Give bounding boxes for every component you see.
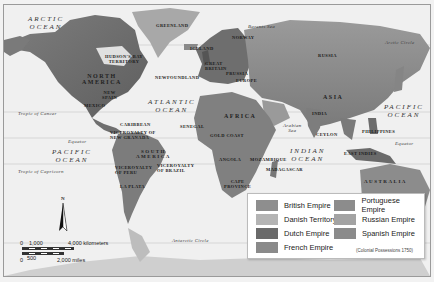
scale-mi-start: 0 [20, 257, 23, 263]
legend-item-dutch: Dutch Empire [256, 227, 329, 239]
legend-label: Spanish Empire [362, 229, 415, 238]
senegal-label: SENEGAL [180, 125, 204, 130]
russian-swatch [334, 214, 356, 225]
legend-item-portuguese: Portuguese Empire [334, 199, 424, 211]
scale-mi-end: 2,000 miles [57, 257, 85, 263]
legend-note: (Colonial Possessions 1750) [356, 248, 413, 253]
compass-north-label: N [61, 196, 65, 201]
legend-label: French Empire [284, 243, 333, 252]
arctic-circle-label: Arctic Circle [385, 40, 415, 45]
ceylon-label: CEYLON [316, 133, 338, 138]
vicer-brazil-label: VICEROYALTY OF BRAZIL [157, 164, 194, 173]
great-britain-label: GREAT BRITAIN [205, 62, 227, 71]
australia-label: AUSTRALIA [364, 179, 407, 184]
iceland-label: ICELAND [190, 47, 214, 52]
south-america-label: SOUTH AMERICA [136, 149, 171, 159]
la-plata-label: LA PLATA [120, 185, 145, 190]
mexico-label: MEXICO [84, 104, 105, 109]
compass-arrow [59, 203, 67, 231]
french-swatch [256, 242, 278, 253]
legend-item-british: British Empire [256, 199, 331, 211]
new-spain-label: NEW SPAIN [102, 91, 117, 100]
atlantic-ocean-label: ATLANTIC OCEAN [148, 98, 196, 114]
legend-item-french: French Empire [256, 241, 333, 253]
legend-label: Dutch Empire [284, 229, 329, 238]
asia-label: ASIA [323, 94, 343, 100]
east-indies-label: EAST INDIES [344, 152, 377, 157]
prussia-label: PRUSSIA [226, 72, 248, 77]
equator-west-label: Equator [68, 139, 87, 144]
tropic-of-capricorn-label: Tropic of Capricorn [18, 169, 64, 174]
arabian-sea-label: Arabian Sea [283, 123, 302, 133]
vicer-peru-label: VICEROYALTY OF PERU [115, 166, 152, 175]
madagascar-label: MADAGASCAR [266, 168, 303, 173]
scale-km-mid: 1,000 [29, 240, 43, 246]
dutch-swatch [256, 228, 278, 239]
antarctic-circle-label: Antarctic Circle [172, 238, 209, 243]
british-swatch [256, 200, 278, 211]
legend-item-russian: Russian Empire [334, 213, 415, 225]
pacific-ocean-east-label: PACIFIC OCEAN [384, 103, 424, 119]
barents-sea-label: Barents Sea [248, 24, 275, 29]
hudson-bay-label: HUDSON'S BAY TERRITORY [105, 55, 143, 64]
southeast-asia-shape [340, 118, 356, 140]
spanish-swatch [334, 228, 356, 239]
russia-label: RUSSIA [318, 54, 337, 59]
legend-label: Portuguese Empire [361, 196, 424, 214]
arctic-ocean-label: ARCTIC OCEAN [28, 15, 64, 31]
legend-label: Danish Territory [284, 215, 336, 224]
norway-label: NORWAY [232, 36, 254, 41]
legend-label: Russian Empire [362, 215, 415, 224]
south-america-shape [112, 132, 166, 224]
north-america-label: NORTH AMERICA [82, 73, 122, 85]
newfoundland-label: NEWFOUNDLAND [155, 76, 199, 81]
world-map: ARCTIC OCEAN ATLANTIC OCEAN PACIFIC OCEA… [0, 0, 434, 282]
map-legend: British Empire Danish Territory Dutch Em… [247, 193, 425, 259]
caribbean-label: CARIBBEAN [120, 123, 151, 128]
legend-label: British Empire [284, 201, 331, 210]
gold-coast-label: GOLD COAST [210, 134, 244, 139]
africa-label: AFRICA [224, 113, 256, 119]
scale-bar-km [22, 247, 74, 250]
danish-swatch [256, 214, 278, 225]
pacific-ocean-west-label: PACIFIC OCEAN [52, 148, 92, 164]
equator-east-label: Equator [395, 141, 414, 146]
legend-item-danish: Danish Territory [256, 213, 336, 225]
scale-mi-mid: 500 [27, 255, 36, 261]
philippines-label: PHILIPPINES [362, 130, 395, 135]
scale-km-start: 0 [20, 240, 23, 246]
indian-ocean-label: INDIAN OCEAN [290, 147, 325, 163]
legend-item-spanish: Spanish Empire [334, 227, 415, 239]
cape-province-label: CAPE PROVINCE [224, 180, 251, 189]
india-label: INDIA [312, 112, 327, 117]
europe-label: EUROPE [236, 79, 257, 84]
tropic-of-cancer-label: Tropic of Cancer [18, 111, 57, 116]
portuguese-swatch [334, 200, 355, 211]
greenland-label: GREENLAND [156, 24, 188, 29]
scale-km-end: 4,000 kilometers [68, 240, 108, 246]
mozambique-label: MOZAMBIQUE [250, 158, 287, 163]
angola-label: ANGOLA [219, 158, 241, 163]
vicer-new-granada-label: VICEROYALTY OF NEW GRANADA [110, 131, 156, 140]
